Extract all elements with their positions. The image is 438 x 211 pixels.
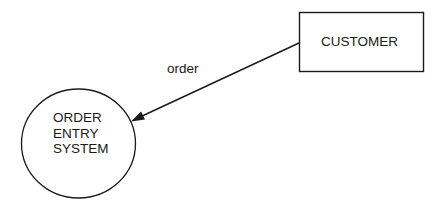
order-flow-label: order xyxy=(167,62,199,76)
order-flow-arrowhead-icon xyxy=(131,112,145,122)
order-entry-process-label: ORDER ENTRY SYSTEM xyxy=(53,110,109,157)
process-label-line-3: SYSTEM xyxy=(53,141,109,157)
customer-entity-label: CUSTOMER xyxy=(321,35,398,49)
process-label-line-1: ORDER xyxy=(53,110,109,126)
order-flow-line xyxy=(140,43,299,117)
process-label-line-2: ENTRY xyxy=(53,126,109,142)
diagram-canvas xyxy=(0,0,438,211)
